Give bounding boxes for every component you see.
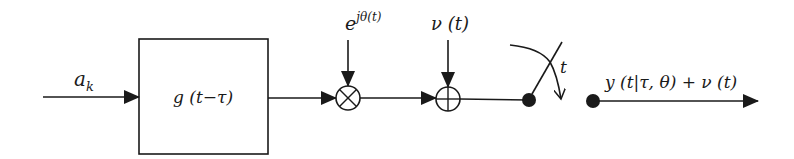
adder: ν (t) [431,13,469,111]
sampler-input-node [522,93,536,107]
output-signal: y (t|τ, θ) + ν (t) [593,72,758,101]
phase-input-label: ejθ(t) [345,10,382,34]
output-label: y (t|τ, θ) + ν (t) [604,72,737,92]
switch-arm [532,42,562,94]
sampler-switch: t [510,42,600,108]
noise-input-label: ν (t) [431,13,469,34]
sampling-rotation-arrow-icon [510,45,561,99]
block-diagram: ak g (t−τ) ejθ(t) ν (t) t [0,0,794,159]
multiplier: ejθ(t) [336,10,382,110]
sampler-label: t [560,57,567,77]
input-label: ak [74,67,94,94]
input-signal: ak [43,67,139,97]
filter-block-label: g (t−τ) [173,87,233,107]
adder-to-sampler-line [460,99,529,100]
filter-block: g (t−τ) [139,39,268,154]
